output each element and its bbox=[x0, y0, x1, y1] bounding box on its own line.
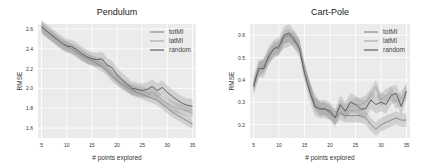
x-tick-label: 15 bbox=[89, 142, 95, 148]
y-tick-label: 0.3 bbox=[238, 99, 245, 105]
x-tick-label: 35 bbox=[190, 142, 196, 148]
y-tick-label: 1.6 bbox=[26, 125, 33, 131]
x-tick-label: 15 bbox=[302, 142, 308, 148]
x-tick-label: 20 bbox=[114, 142, 120, 148]
chart-pendulum: Pendulum51015202530351.61.82.02.22.42.6#… bbox=[0, 0, 210, 168]
x-tick-label: 10 bbox=[64, 142, 70, 148]
cart-pole-chart-svg: Cart-Pole51015202530350.20.30.40.50.6# p… bbox=[210, 0, 421, 168]
legend-label-latMI: latMI bbox=[169, 37, 183, 44]
y-tick-label: 2.2 bbox=[26, 66, 33, 72]
y-tick-label: 0.2 bbox=[238, 122, 245, 128]
legend-label-random: random bbox=[169, 46, 191, 53]
x-tick-label: 5 bbox=[40, 142, 43, 148]
chart-cart-pole: Cart-Pole51015202530350.20.30.40.50.6# p… bbox=[210, 0, 421, 168]
y-tick-label: 2.6 bbox=[26, 26, 33, 32]
y-axis-label: RMSE bbox=[16, 71, 23, 90]
legend-label-random: random bbox=[383, 46, 405, 53]
y-tick-label: 0.4 bbox=[238, 77, 245, 83]
chart-title: Cart-Pole bbox=[311, 7, 349, 17]
y-tick-label: 0.5 bbox=[238, 55, 245, 61]
pendulum-chart-svg: Pendulum51015202530351.61.82.02.22.42.6#… bbox=[0, 0, 210, 168]
y-axis-label: RMSE bbox=[228, 71, 235, 90]
x-tick-label: 20 bbox=[327, 142, 333, 148]
legend-label-totMI: totMI bbox=[383, 28, 398, 35]
y-tick-label: 2.4 bbox=[26, 46, 33, 52]
y-tick-label: 2.0 bbox=[26, 85, 33, 91]
x-tick-label: 30 bbox=[378, 142, 384, 148]
x-axis-label: # points explored bbox=[305, 154, 355, 162]
x-tick-label: 5 bbox=[252, 142, 255, 148]
x-axis-label: # points explored bbox=[92, 154, 142, 162]
y-tick-label: 0.6 bbox=[238, 32, 245, 38]
x-tick-label: 10 bbox=[276, 142, 282, 148]
x-tick-label: 35 bbox=[404, 142, 410, 148]
x-tick-label: 30 bbox=[165, 142, 171, 148]
x-tick-label: 25 bbox=[139, 142, 145, 148]
legend-label-totMI: totMI bbox=[169, 28, 184, 35]
x-tick-label: 25 bbox=[353, 142, 359, 148]
y-tick-label: 1.8 bbox=[26, 105, 33, 111]
legend-label-latMI: latMI bbox=[383, 37, 397, 44]
chart-title: Pendulum bbox=[97, 7, 138, 17]
